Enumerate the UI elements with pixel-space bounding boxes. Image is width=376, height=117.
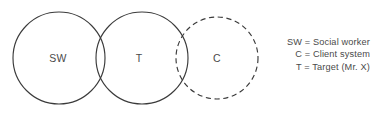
legend-line-social-worker: SW = Social worker xyxy=(287,36,370,48)
circle-label-target: T xyxy=(136,52,143,64)
legend-line-target: T = Target (Mr. X) xyxy=(287,61,370,73)
circle-label-client-system: C xyxy=(213,52,221,64)
circle-label-social-worker: SW xyxy=(49,52,67,64)
legend: SW = Social worker C = Client system T =… xyxy=(287,36,370,73)
legend-line-client-system: C = Client system xyxy=(287,48,370,60)
venn-diagram-figure: SW T C SW = Social worker C = Client sys… xyxy=(0,0,376,117)
